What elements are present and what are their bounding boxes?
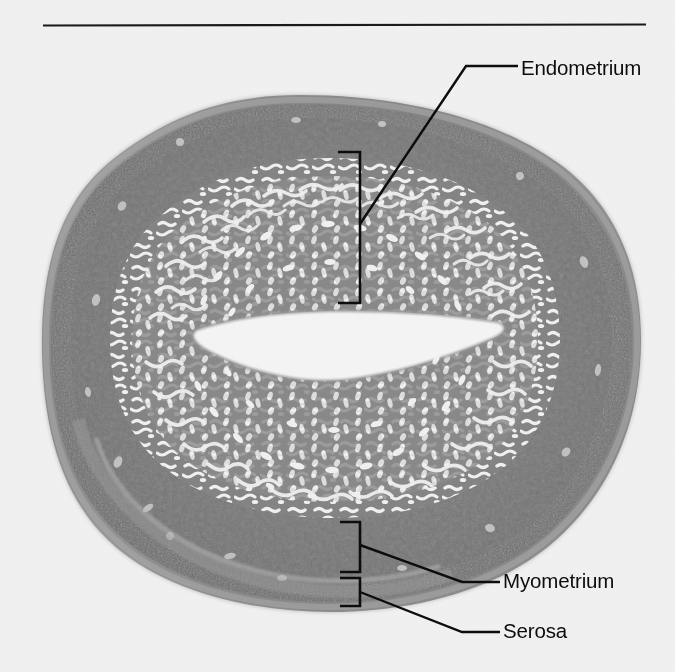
label-endometrium: Endometrium <box>521 56 641 80</box>
specimen-grain <box>40 90 645 615</box>
figure-page: Endometrium Myometrium Serosa <box>0 0 675 672</box>
tissue-specimen <box>40 90 645 615</box>
header-rule <box>43 25 646 26</box>
label-serosa: Serosa <box>503 619 567 643</box>
label-myometrium: Myometrium <box>503 569 614 593</box>
